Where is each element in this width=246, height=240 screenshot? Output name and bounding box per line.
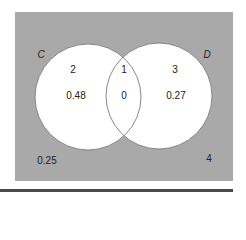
set-c-label: C — [37, 50, 44, 60]
bottom-rule — [0, 189, 233, 192]
region-d-only-id: 3 — [172, 65, 178, 75]
region-c-only-probability: 0.48 — [66, 91, 85, 101]
set-d-label: D — [203, 50, 210, 60]
region-c-only-id: 2 — [70, 65, 76, 75]
region-intersection-probability: 0 — [121, 91, 127, 101]
region-outside-probability: 0.25 — [37, 156, 56, 166]
region-intersection-id: 1 — [121, 65, 127, 75]
region-outside-id: 4 — [206, 154, 212, 164]
region-d-only-probability: 0.27 — [166, 91, 185, 101]
